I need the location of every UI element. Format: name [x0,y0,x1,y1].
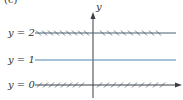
y-axis-label: y [95,1,102,12]
line-y-1: y = 1 [7,54,176,65]
y-axis: y [91,1,103,98]
line-label-y-2: y = 2 [7,27,35,38]
y-axis-arrow-icon [91,12,96,19]
panel-label: (c) [4,0,18,5]
line-label-y-1: y = 1 [7,54,35,65]
line-label-y-0: y = 0 [7,79,35,90]
slope-field-figure: (c) y y = 2 [0,0,183,100]
line-y-2: y = 2 [7,27,176,38]
x-axis-arrow-icon [175,83,182,88]
line-y-0: y = 0 [7,79,182,90]
